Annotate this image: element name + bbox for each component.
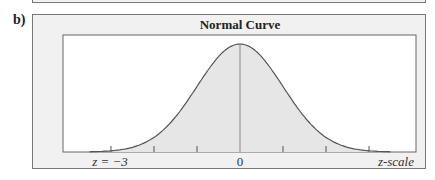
- tick-label-z-minus-3: z = −3: [91, 154, 128, 169]
- normal-curve-chart: Normal Curve z = −3 0 z-scale: [0, 0, 435, 180]
- tick-label-zero: 0: [237, 154, 244, 169]
- chart-title: Normal Curve: [200, 17, 281, 32]
- x-axis-label: z-scale: [377, 154, 414, 169]
